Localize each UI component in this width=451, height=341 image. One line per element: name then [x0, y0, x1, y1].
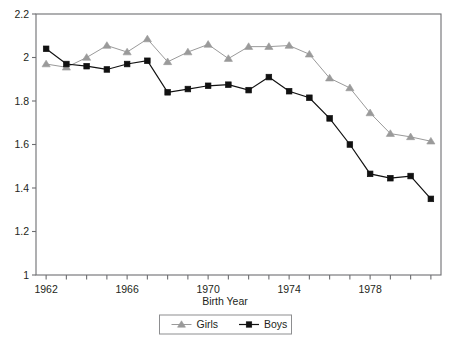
data-point-marker — [367, 171, 373, 177]
data-point-marker — [285, 42, 293, 49]
data-point-marker — [184, 48, 192, 55]
legend-item-label: Boys — [264, 318, 287, 330]
data-point-marker — [124, 61, 130, 67]
data-point-marker — [305, 50, 313, 57]
data-series-group — [42, 35, 435, 202]
y-tick-label: 1.8 — [14, 95, 29, 107]
data-point-marker — [64, 61, 70, 67]
x-tick-label: 1966 — [115, 283, 139, 295]
x-tick-label: 1978 — [358, 283, 382, 295]
data-point-marker — [307, 95, 313, 101]
series-boys — [43, 46, 433, 202]
series-girls — [42, 35, 435, 144]
data-point-marker — [408, 173, 414, 179]
data-point-marker — [43, 46, 49, 52]
x-axis-title: Birth Year — [202, 295, 248, 307]
y-tick-label: 1 — [23, 269, 29, 281]
legend-item-label: Girls — [197, 318, 219, 330]
data-point-marker — [145, 58, 151, 64]
data-point-marker — [224, 55, 232, 62]
y-tick-label: 1.2 — [14, 225, 29, 237]
data-point-marker — [185, 86, 191, 92]
data-point-marker — [245, 43, 253, 50]
data-point-marker — [347, 142, 353, 148]
y-tick-label: 2.2 — [14, 8, 29, 20]
data-point-marker — [84, 63, 90, 69]
data-point-marker — [83, 54, 91, 61]
x-tick-label: 1974 — [277, 283, 301, 295]
data-point-marker — [246, 87, 252, 93]
chart-legend: GirlsBoys — [160, 315, 292, 334]
y-tick-label: 1.4 — [14, 182, 29, 194]
x-tick-label: 1962 — [34, 283, 58, 295]
data-point-marker — [104, 67, 110, 73]
data-point-marker — [226, 82, 232, 88]
data-point-marker — [42, 60, 50, 67]
x-tick-label: 1970 — [196, 283, 220, 295]
y-tick-label: 2 — [23, 51, 29, 63]
data-point-marker — [428, 196, 434, 202]
data-point-marker — [204, 41, 212, 48]
data-point-marker — [143, 35, 151, 42]
data-point-marker — [205, 83, 211, 89]
y-tick-label: 1.6 — [14, 138, 29, 150]
series-line — [46, 39, 431, 141]
data-point-marker — [286, 88, 292, 94]
data-point-marker — [246, 322, 251, 327]
data-point-marker — [266, 74, 272, 80]
chart-container: 11.21.41.61.822.2 19621966197019741978 B… — [0, 0, 451, 341]
y-axis-ticks: 11.21.41.61.822.2 — [14, 8, 36, 281]
x-axis-ticks: 19621966197019741978 — [34, 275, 430, 295]
data-point-marker — [388, 175, 394, 181]
data-point-marker — [165, 90, 171, 96]
data-point-marker — [346, 84, 354, 91]
data-point-marker — [327, 116, 333, 122]
line-chart: 11.21.41.61.822.2 19621966197019741978 B… — [0, 0, 451, 341]
data-point-marker — [103, 42, 111, 49]
